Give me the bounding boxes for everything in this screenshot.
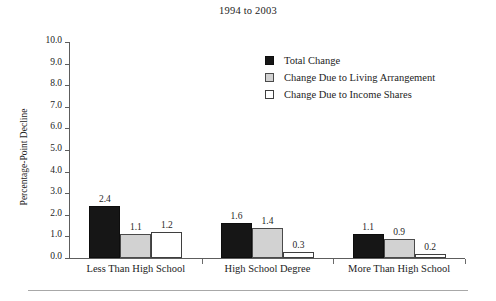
bar-living-2: 0.9 [384,239,415,258]
bar-value-label: 0.9 [393,227,405,237]
bar-value-label: 0.3 [293,240,305,250]
legend-row-income: Change Due to Income Shares [265,86,435,103]
y-tick-mark [65,42,70,43]
bar-value-label: 1.1 [362,222,374,232]
y-tick-mark [65,215,70,216]
chart-title: 1994 to 2003 [0,5,496,16]
x-category-label-2: More Than High School [333,263,465,274]
bar-value-label: 1.2 [161,220,173,230]
legend-label-total: Total Change [284,55,340,66]
y-tick-label: 4.0 [50,165,62,175]
legend-swatch-icon-income [265,90,274,99]
bar-total-1: 1.6 [221,223,252,258]
y-tick-mark [65,128,70,129]
legend-swatch-icon-total [265,56,274,65]
bar-income-2: 0.2 [415,254,446,258]
bar-living-0: 1.1 [120,234,151,258]
bar-value-label: 1.6 [231,211,243,221]
legend-swatch-icon-living [265,73,274,82]
bar-income-0: 1.2 [151,232,182,258]
y-tick-label: 2.0 [50,208,62,218]
chart-figure: 1994 to 2003 Percentage-Point Decline 10… [0,0,496,301]
legend-label-living: Change Due to Living Arrangement [284,72,435,83]
y-tick-label: 1.0 [50,229,62,239]
legend-row-total: Total Change [265,52,435,69]
y-tick-mark [65,64,70,65]
x-category-label-0: Less Than High School [70,263,202,274]
y-tick-mark [65,150,70,151]
y-tick-mark [65,258,70,259]
bar-value-label: 0.2 [424,242,436,252]
y-tick-mark [65,236,70,237]
y-tick-mark [65,193,70,194]
bar-value-label: 1.1 [130,222,142,232]
bar-total-0: 2.4 [89,206,120,258]
legend-label-income: Change Due to Income Shares [284,89,412,100]
x-category-label-1: High School Degree [202,263,334,274]
y-tick-label: 5.0 [50,143,62,153]
y-tick-label: 9.0 [50,57,62,67]
bar-total-2: 1.1 [353,234,384,258]
legend-row-living: Change Due to Living Arrangement [265,69,435,86]
y-tick-mark [65,107,70,108]
y-tick-label: 10.0 [45,35,62,45]
y-tick-mark [65,85,70,86]
bar-value-label: 1.4 [262,216,274,226]
y-tick-mark [65,172,70,173]
y-tick-label: 6.0 [50,121,62,131]
y-tick-label: 8.0 [50,78,62,88]
bar-value-label: 2.4 [99,194,111,204]
x-axis-end-tick [465,259,466,264]
footer-divider [28,290,468,291]
y-tick-label: 0.0 [50,251,62,261]
bar-living-1: 1.4 [252,228,283,258]
x-axis-line [69,258,465,259]
bar-income-1: 0.3 [283,252,314,258]
chart-legend: Total ChangeChange Due to Living Arrange… [265,52,435,103]
y-tick-label: 3.0 [50,186,62,196]
y-tick-label: 7.0 [50,100,62,110]
y-axis-title: Percentage-Point Decline [19,49,33,265]
